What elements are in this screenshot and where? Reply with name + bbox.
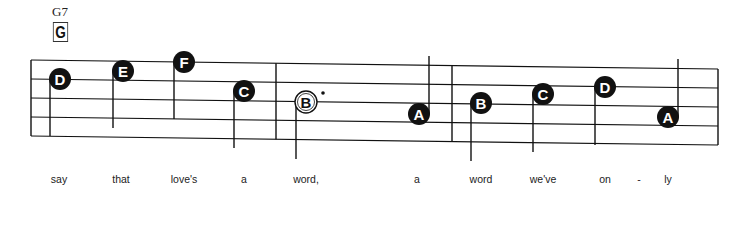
- lyric-word: love's: [171, 173, 198, 185]
- lyric-word: a: [414, 173, 420, 185]
- note-b: B: [470, 92, 492, 161]
- note-c: C: [233, 80, 255, 148]
- note-letter: D: [600, 79, 611, 96]
- note-letter: D: [55, 71, 66, 88]
- note-d: D: [594, 76, 616, 145]
- lyric-word: on: [599, 173, 611, 185]
- note-letter: A: [663, 109, 674, 126]
- note-letter: A: [414, 106, 425, 123]
- staff-line: [31, 136, 718, 145]
- note-letter: F: [179, 54, 188, 71]
- note-c: C: [532, 83, 554, 152]
- lyric-hyphen: -: [637, 173, 641, 185]
- staff-line: [31, 60, 718, 69]
- note-f: F: [173, 51, 195, 119]
- lyric-word: we've: [530, 173, 557, 185]
- dot-icon: [321, 91, 325, 95]
- lyric-word: word,: [293, 173, 319, 185]
- lyric-word: that: [112, 173, 130, 185]
- note-letter: C: [239, 83, 250, 100]
- note-letter: B: [301, 94, 312, 111]
- staff-line: [31, 98, 718, 107]
- lyric-word: ly: [664, 173, 672, 185]
- lyric-word: a: [241, 173, 247, 185]
- note-letter: C: [538, 86, 549, 103]
- note-d: D: [49, 68, 71, 136]
- note-letter: E: [118, 63, 128, 80]
- lyric-word: say: [51, 173, 67, 185]
- note-a: A: [657, 59, 679, 128]
- note-letter: B: [476, 95, 487, 112]
- lyric-word: word: [470, 173, 493, 185]
- staff-line: [31, 117, 718, 126]
- note-a: A: [408, 56, 430, 125]
